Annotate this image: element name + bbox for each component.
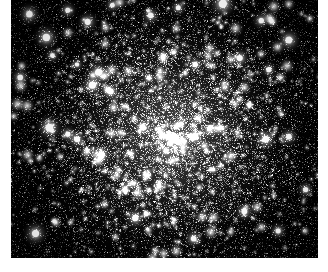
image-page — [0, 0, 328, 272]
astronomical-image-plate — [11, 0, 318, 258]
globular-cluster-starfield — [11, 0, 318, 258]
